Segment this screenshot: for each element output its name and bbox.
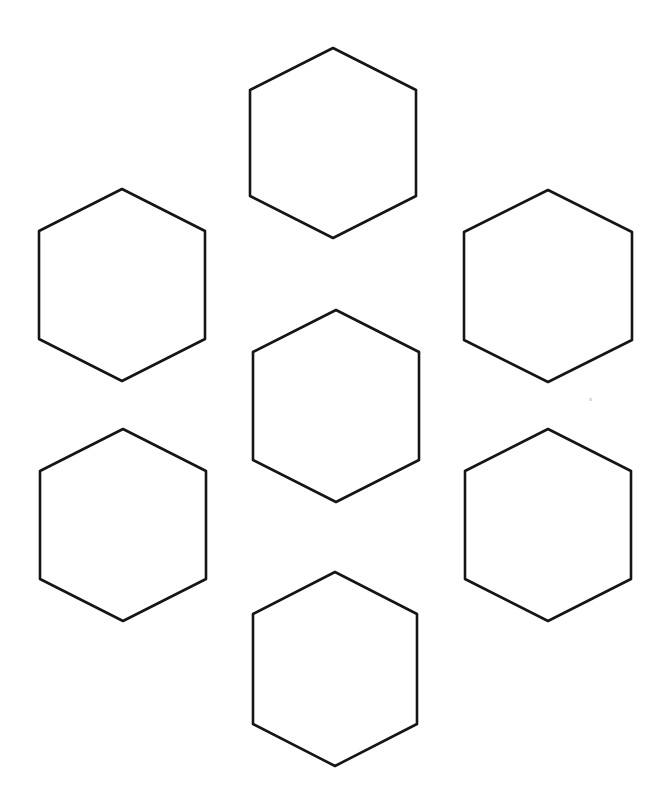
hex-top — [250, 48, 416, 238]
hexagon-canvas — [0, 0, 664, 807]
hex-center — [253, 310, 419, 502]
scan-speck — [589, 398, 592, 401]
hex-bottom — [253, 572, 417, 766]
artifact-group — [589, 398, 592, 401]
hex-lower-right — [465, 429, 631, 621]
hex-upper-left — [39, 189, 205, 381]
hex-lower-left — [40, 429, 206, 621]
hex-upper-right — [464, 190, 632, 382]
worksheet-page — [0, 0, 664, 807]
